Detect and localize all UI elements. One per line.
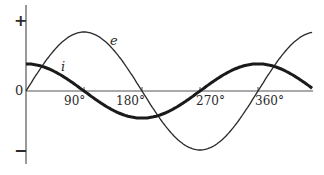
y-negative-label: − <box>14 143 27 159</box>
origin-label: 0 <box>15 84 23 97</box>
tick-label-270: 270° <box>196 95 225 107</box>
tick-label-90: 90° <box>64 95 85 107</box>
curve-label-e: e <box>110 34 118 47</box>
tick-label-180: 180° <box>116 95 145 107</box>
phase-diagram <box>0 0 324 175</box>
tick-label-360: 360° <box>255 95 284 107</box>
curve-label-i: i <box>61 60 65 73</box>
y-positive-label: + <box>14 13 27 29</box>
